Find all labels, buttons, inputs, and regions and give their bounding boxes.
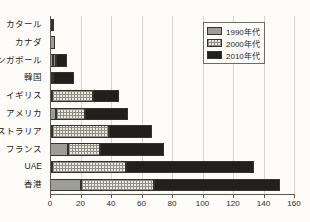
x-axis-tick — [81, 194, 82, 198]
bar-segment — [126, 161, 254, 174]
x-axis-tick-label: 0 — [48, 199, 52, 208]
legend-item: 1990年代 — [207, 25, 260, 37]
legend-item: 2010年代 — [207, 49, 260, 61]
bar-segment — [85, 108, 128, 121]
bar-segment — [81, 179, 154, 192]
legend-label: 2000年代 — [226, 38, 260, 49]
scan-artifact-text — [12, 1, 132, 6]
y-axis-line — [50, 16, 51, 194]
x-axis-tick — [142, 194, 143, 198]
bar-segment — [100, 143, 164, 156]
y-axis-category-label: イギリス — [0, 87, 42, 105]
x-axis-tick-label: 140 — [257, 199, 270, 208]
chart-legend: 1990年代2000年代2010年代 — [203, 22, 265, 64]
legend-label: 2010年代 — [226, 50, 260, 61]
chart-row: フランス — [50, 141, 294, 159]
y-axis-category-label: フランス — [0, 141, 42, 159]
chart-row: オーストラリア — [50, 123, 294, 141]
bar-segment — [50, 143, 68, 156]
x-axis-tick — [50, 194, 51, 198]
y-axis-category-label: カタール — [0, 16, 42, 34]
x-axis-tick — [111, 194, 112, 198]
chart-row: UAE — [50, 158, 294, 176]
bar-segment — [109, 125, 152, 138]
x-axis-tick — [203, 194, 204, 198]
x-axis-tick-label: 40 — [107, 199, 116, 208]
chart-row: アメリカ — [50, 105, 294, 123]
bar-segment — [56, 54, 67, 67]
y-axis-category-label: 香港 — [0, 176, 42, 194]
bar-segment — [52, 90, 93, 103]
bar-chart: カタールカナダシンガポール韓国イギリスアメリカオーストラリアフランスUAE香港 … — [0, 0, 310, 222]
bar-segment — [93, 90, 119, 103]
x-axis-tick — [172, 194, 173, 198]
y-axis-category-label: 韓国 — [0, 69, 42, 87]
legend-swatch — [207, 27, 222, 35]
chart-row: イギリス — [50, 87, 294, 105]
x-axis-tick-label: 160 — [287, 199, 300, 208]
x-axis-tick-label: 20 — [76, 199, 85, 208]
x-axis-tick — [264, 194, 265, 198]
y-axis-category-label: カナダ — [0, 34, 42, 52]
bar-segment — [68, 143, 100, 156]
y-axis-category-label: オーストラリア — [0, 123, 42, 141]
y-axis-category-label: UAE — [0, 158, 42, 176]
legend-label: 1990年代 — [226, 26, 260, 37]
x-axis-tick-label: 60 — [137, 199, 146, 208]
x-axis-tick-label: 120 — [226, 199, 239, 208]
x-axis-tick — [233, 194, 234, 198]
chart-row: 韓国 — [50, 69, 294, 87]
bar-segment — [52, 19, 54, 32]
x-axis-tick-label: 100 — [196, 199, 209, 208]
y-axis-category-label: シンガポール — [0, 52, 42, 70]
bar-segment — [154, 179, 281, 192]
bar-segment — [52, 161, 127, 174]
bar-segment — [56, 108, 85, 121]
legend-swatch — [207, 39, 222, 47]
grid-line — [294, 16, 295, 194]
x-axis-tick-label: 80 — [168, 199, 177, 208]
legend-item: 2000年代 — [207, 37, 260, 49]
bar-segment — [52, 125, 110, 138]
chart-row: 香港 — [50, 176, 294, 194]
legend-swatch — [207, 51, 222, 59]
y-axis-category-label: アメリカ — [0, 105, 42, 123]
bar-segment — [50, 179, 81, 192]
bar-segment — [53, 72, 74, 85]
x-axis-tick — [294, 194, 295, 198]
